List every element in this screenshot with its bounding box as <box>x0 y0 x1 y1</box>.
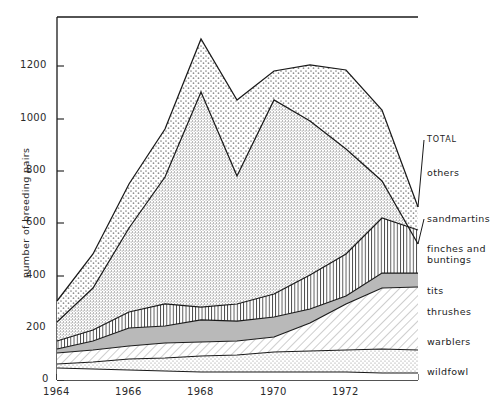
x-tick-label-1964: 1964 <box>43 386 70 397</box>
legend-label-finches-buntings-line1: finches and <box>427 243 486 254</box>
legend-label-finches-buntings-line2: buntings <box>427 254 471 265</box>
x-tick-label-1970: 1970 <box>260 386 287 397</box>
legend-label-others: others <box>427 167 459 178</box>
y-tick-label-200: 200 <box>26 321 46 332</box>
x-tick-label-1966: 1966 <box>115 386 142 397</box>
legend-label-sandmartins: sandmartins <box>427 213 490 224</box>
legend-label-thrushes: thrushes <box>427 306 471 317</box>
y-tick-label-600: 600 <box>26 216 46 227</box>
legend-label-total: TOTAL <box>427 134 457 145</box>
y-tick-label-0: 0 <box>42 373 49 384</box>
y-tick-label-1000: 1000 <box>20 112 47 123</box>
y-tick-label-1200: 1200 <box>20 59 47 70</box>
y-tick-label-400: 400 <box>26 269 46 280</box>
legend-label-wildfowl: wildfowl <box>427 366 468 377</box>
y-tick-label-800: 800 <box>26 164 46 175</box>
legend-label-warblers: warblers <box>427 336 471 347</box>
x-tick-label-1968: 1968 <box>187 386 214 397</box>
legend-label-tits: tits <box>427 285 443 296</box>
x-tick-label-1972: 1972 <box>332 386 359 397</box>
legend-leader-lines <box>418 140 424 244</box>
